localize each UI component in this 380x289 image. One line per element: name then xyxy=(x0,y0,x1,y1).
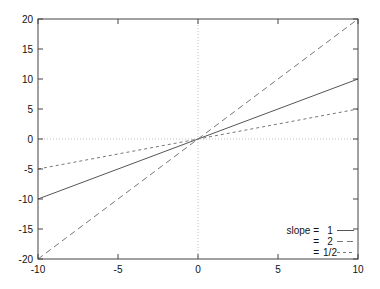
y-tick-label: -15 xyxy=(19,224,34,235)
legend-label: 1/2 xyxy=(323,247,337,258)
line-chart: -20-15-10-505101520-10-50510 slope =1=2=… xyxy=(0,0,380,289)
x-tick-label: 0 xyxy=(195,264,201,275)
y-tick-label: 15 xyxy=(22,44,34,55)
legend-prefix: slope = xyxy=(286,225,319,236)
legend-label: 2 xyxy=(327,236,333,247)
legend: slope =1=2=1/2 xyxy=(286,225,354,258)
y-tick-label: -20 xyxy=(19,254,34,265)
x-tick-label: 10 xyxy=(352,264,364,275)
x-tick-label: 5 xyxy=(275,264,281,275)
legend-prefix: = xyxy=(313,247,319,258)
y-tick-label: 10 xyxy=(22,74,34,85)
y-tick-label: 0 xyxy=(27,134,33,145)
x-tick-label: -10 xyxy=(31,264,46,275)
y-tick-label: 5 xyxy=(27,104,33,115)
y-tick-label: -5 xyxy=(24,164,33,175)
legend-label: 1 xyxy=(327,225,333,236)
y-tick-label: -10 xyxy=(19,194,34,205)
legend-prefix: = xyxy=(313,236,319,247)
y-tick-label: 20 xyxy=(22,14,34,25)
x-tick-label: -5 xyxy=(114,264,123,275)
